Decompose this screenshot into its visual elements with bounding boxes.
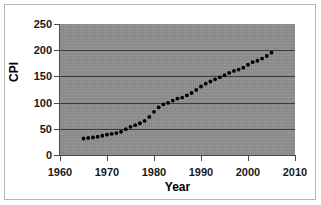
data-point <box>119 130 123 134</box>
data-point <box>86 136 90 140</box>
data-point <box>256 59 260 63</box>
data-point <box>246 63 250 67</box>
x-tick-mark-2000 <box>248 156 249 161</box>
y-tick-label-200: 200 <box>0 45 52 56</box>
x-tick-label-2010: 2010 <box>273 162 317 180</box>
y-tick-label-100: 100 <box>0 98 52 109</box>
x-tick-mark-1990 <box>201 156 202 161</box>
y-tick-label-150: 150 <box>0 71 52 82</box>
data-point <box>237 68 241 72</box>
y-tick-label-50: 50 <box>0 124 52 135</box>
data-point <box>176 97 180 101</box>
x-tick-mark-1980 <box>154 156 155 161</box>
data-point <box>82 137 86 141</box>
data-point <box>129 125 133 129</box>
data-point <box>251 60 255 64</box>
data-point <box>96 135 100 139</box>
y-axis-line <box>59 24 60 156</box>
data-point <box>162 103 166 107</box>
data-point <box>204 82 208 86</box>
x-tick-label-2000: 2000 <box>226 162 270 180</box>
x-tick-label-1960: 1960 <box>38 162 82 180</box>
data-point <box>171 99 175 103</box>
data-point <box>185 94 189 98</box>
x-tick-mark-2010 <box>295 156 296 161</box>
plot-area <box>60 24 295 155</box>
data-point <box>199 85 203 89</box>
data-point <box>270 51 274 55</box>
data-series-layer <box>60 24 295 155</box>
data-point <box>218 75 222 79</box>
data-point <box>180 96 184 100</box>
data-point <box>157 105 161 109</box>
data-point <box>100 134 104 138</box>
data-point <box>143 119 147 123</box>
data-point <box>194 88 198 92</box>
data-point <box>209 80 213 84</box>
data-point <box>133 123 137 127</box>
data-point <box>166 101 170 105</box>
data-point <box>265 54 269 58</box>
data-point <box>138 121 142 125</box>
data-point <box>241 66 245 70</box>
data-point <box>110 132 114 136</box>
y-tick-label-0: 0 <box>0 150 52 161</box>
data-point <box>147 115 151 119</box>
x-tick-label-1970: 1970 <box>85 162 129 180</box>
data-point <box>91 136 95 140</box>
data-point <box>115 131 119 135</box>
data-point <box>105 133 109 137</box>
x-axis-title: Year <box>60 180 295 194</box>
data-point <box>223 73 227 77</box>
data-point <box>213 77 217 81</box>
x-tick-label-1980: 1980 <box>132 162 176 180</box>
data-point <box>232 69 236 73</box>
data-point <box>190 91 194 95</box>
x-tick-label-1990: 1990 <box>179 162 223 180</box>
data-point <box>152 110 156 114</box>
data-point <box>124 127 128 131</box>
y-tick-label-250: 250 <box>0 19 52 30</box>
data-point <box>260 57 264 61</box>
x-axis-line <box>59 155 296 156</box>
chart-figure: CPI 250 200 150 100 50 0 1960 <box>0 0 321 205</box>
x-tick-mark-1960 <box>60 156 61 161</box>
data-point <box>227 71 231 75</box>
x-tick-mark-1970 <box>107 156 108 161</box>
